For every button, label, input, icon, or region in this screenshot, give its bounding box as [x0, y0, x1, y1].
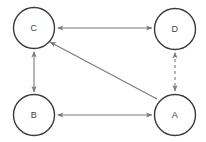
node-a-label: A: [172, 110, 178, 120]
edge-a-c-diagonal[interactable]: [50, 42, 157, 99]
edge-layer: [34, 28, 175, 115]
node-d-label: D: [172, 24, 179, 34]
node-c-label: C: [31, 23, 38, 33]
node-b[interactable]: B: [14, 95, 55, 136]
diagram-canvas: C D B A: [0, 0, 206, 142]
node-a[interactable]: A: [155, 95, 196, 136]
diagram-svg: C D B A: [0, 0, 206, 142]
node-c[interactable]: C: [14, 8, 55, 49]
node-d[interactable]: D: [155, 9, 196, 50]
node-b-label: B: [31, 110, 37, 120]
